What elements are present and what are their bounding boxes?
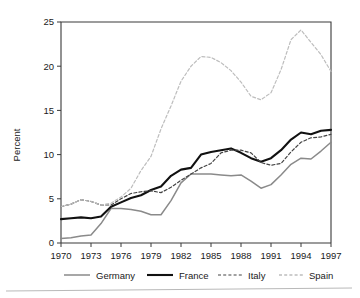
x-tick-label: 1997	[320, 250, 341, 261]
y-tick-label: 15	[43, 105, 54, 116]
chart-figure: 0510152025 19701973197619791982198519881…	[0, 0, 360, 298]
y-tick-label: 25	[43, 16, 54, 27]
x-tick-label: 1979	[140, 250, 161, 261]
x-tick-label: 1976	[110, 250, 131, 261]
legend-label-france: France	[179, 270, 209, 281]
y-axis-label: Percent	[11, 128, 22, 161]
line-chart: 0510152025 19701973197619791982198519881…	[0, 0, 360, 298]
x-tick-label: 1973	[80, 250, 101, 261]
legend-label-germany: Germany	[96, 270, 135, 281]
y-tick-label: 5	[49, 193, 54, 204]
x-tick-label: 1982	[170, 250, 191, 261]
legend-label-italy: Italy	[248, 270, 266, 281]
y-tick-label: 0	[49, 237, 54, 248]
x-tick-label: 1985	[200, 250, 221, 261]
y-tick-label: 10	[43, 149, 54, 160]
x-tick-label: 1994	[290, 250, 311, 261]
legend-label-spain: Spain	[309, 270, 333, 281]
x-tick-label: 1991	[260, 250, 281, 261]
y-tick-label: 20	[43, 61, 54, 72]
x-tick-label: 1988	[230, 250, 251, 261]
x-tick-label: 1970	[50, 250, 71, 261]
